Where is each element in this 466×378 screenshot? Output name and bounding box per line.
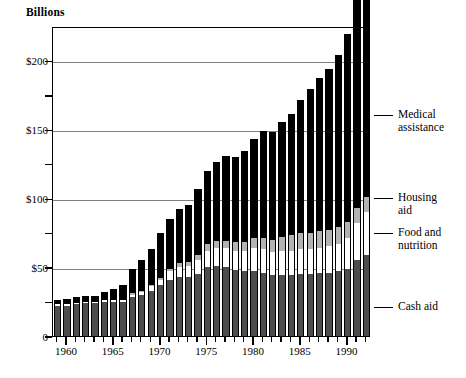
bar-segment-1965-food (110, 300, 117, 301)
x-tick-1960 (65, 337, 67, 345)
bar-1978[interactable] (232, 26, 239, 336)
bar-segment-1964-medical (101, 292, 108, 300)
bar-1972[interactable] (176, 26, 183, 336)
bar-segment-1985-cash (297, 274, 304, 336)
bar-1984[interactable] (288, 26, 295, 336)
bar-segment-1974-food (194, 260, 201, 274)
x-tick-1987 (318, 337, 319, 342)
x-tick-1989 (337, 337, 338, 342)
bar-1975[interactable] (204, 26, 211, 336)
bar-segment-1975-medical (204, 171, 211, 244)
bar-segment-1989-housing (335, 227, 342, 244)
x-tick-1972 (178, 337, 179, 342)
bar-segment-1989-medical (335, 55, 342, 227)
welfare-spending-stacked-bar-chart: Billions 0$50$100$150$200 19601965197019… (0, 0, 466, 378)
annotation-label-medical-assistance: Medical assistance (398, 108, 444, 134)
bar-segment-1983-housing (278, 237, 285, 251)
bar-segment-1979-medical (241, 151, 248, 242)
bar-segment-1977-food (222, 248, 229, 267)
x-tick-1988 (327, 337, 328, 342)
bar-1960[interactable] (63, 26, 70, 336)
x-tick-1982 (271, 337, 272, 342)
bar-1983[interactable] (278, 26, 285, 336)
bar-1979[interactable] (241, 26, 248, 336)
bar-1990[interactable] (344, 26, 351, 336)
bar-1968[interactable] (138, 26, 145, 336)
bar-1991[interactable] (353, 26, 360, 336)
x-tick-1991 (355, 337, 356, 342)
bar-1959[interactable] (54, 26, 61, 336)
bar-segment-1979-cash (241, 271, 248, 336)
bar-segment-1989-cash (335, 271, 342, 336)
bar-segment-1985-housing (297, 233, 304, 250)
bar-1976[interactable] (213, 26, 220, 336)
bar-segment-1982-housing (269, 240, 276, 252)
bar-segment-1970-medical (157, 233, 164, 278)
bar-1963[interactable] (91, 26, 98, 336)
bar-segment-1975-food (204, 251, 211, 268)
bar-segment-1965-medical (110, 289, 117, 300)
bar-segment-1967-cash (129, 297, 136, 336)
bar-1964[interactable] (101, 26, 108, 336)
bar-segment-1974-cash (194, 274, 201, 336)
bar-segment-1988-cash (325, 273, 332, 336)
bar-segment-1961-medical (73, 297, 80, 303)
bar-segment-1985-food (297, 249, 304, 274)
bar-1986[interactable] (307, 26, 314, 336)
bar-segment-1973-cash (185, 277, 192, 336)
bar-segment-1983-food (278, 251, 285, 276)
bar-1973[interactable] (185, 26, 192, 336)
bar-1969[interactable] (148, 26, 155, 336)
bar-1992[interactable] (363, 26, 370, 336)
bar-segment-1992-medical (363, 0, 370, 197)
bar-segment-1971-food (166, 271, 173, 279)
bar-segment-1982-cash (269, 275, 276, 336)
bar-1985[interactable] (297, 26, 304, 336)
bar-1988[interactable] (325, 26, 332, 336)
bar-1987[interactable] (316, 26, 323, 336)
bar-segment-1981-food (260, 249, 267, 272)
bar-1981[interactable] (260, 26, 267, 336)
x-tick-label-1980: 1980 (242, 345, 264, 357)
x-tick-1961 (75, 337, 76, 342)
bar-segment-1990-housing (344, 222, 351, 239)
bar-segment-1987-medical (316, 78, 323, 231)
bar-1965[interactable] (110, 26, 117, 336)
bar-segment-1978-medical (232, 157, 239, 242)
x-tick-label-1985: 1985 (289, 345, 311, 357)
bar-segment-1972-food (176, 267, 183, 277)
bar-segment-1988-housing (325, 230, 332, 247)
bar-1980[interactable] (250, 26, 257, 336)
x-tick-1969 (150, 337, 151, 342)
plot-inner (53, 28, 369, 336)
x-tick-1976 (215, 337, 216, 342)
bar-segment-1969-housing (148, 285, 155, 286)
bar-segment-1990-medical (344, 34, 351, 221)
bar-segment-1959-food (54, 304, 61, 305)
bar-segment-1960-medical (63, 299, 70, 305)
bar-segment-1974-housing (194, 255, 201, 261)
x-tick-1974 (196, 337, 197, 342)
x-tick-1968 (140, 337, 141, 342)
bar-segment-1984-food (288, 251, 295, 276)
bar-segment-1983-cash (278, 275, 285, 336)
bar-1971[interactable] (166, 26, 173, 336)
bar-1970[interactable] (157, 26, 164, 336)
bar-segment-1970-food (157, 280, 164, 286)
annotation-label-cash-aid: Cash aid (398, 300, 438, 313)
bar-1977[interactable] (222, 26, 229, 336)
bar-segment-1973-housing (185, 262, 192, 266)
bar-1989[interactable] (335, 26, 342, 336)
bar-segment-1972-cash (176, 277, 183, 336)
x-tick-1986 (309, 337, 310, 342)
bar-1966[interactable] (119, 26, 126, 336)
bar-1962[interactable] (82, 26, 89, 336)
bar-1967[interactable] (129, 26, 136, 336)
bar-segment-1980-housing (250, 238, 257, 248)
bar-1974[interactable] (194, 26, 201, 336)
bar-segment-1986-cash (307, 274, 314, 336)
bar-segment-1986-food (307, 249, 314, 274)
bar-1982[interactable] (269, 26, 276, 336)
bar-segment-1978-cash (232, 270, 239, 336)
bar-1961[interactable] (73, 26, 80, 336)
